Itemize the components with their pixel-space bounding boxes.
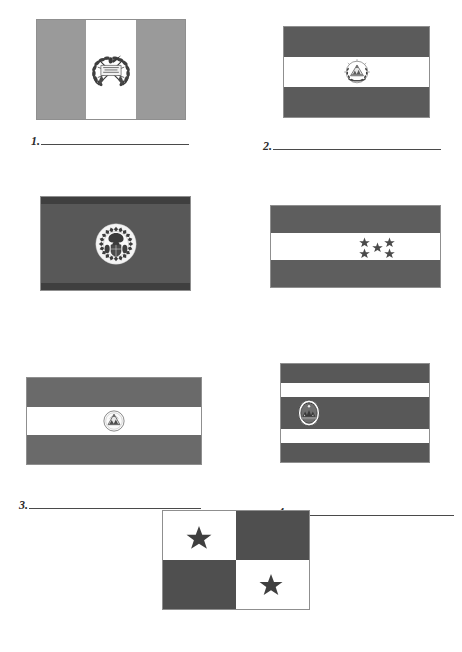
triangle-wreath-seal-emblem xyxy=(343,59,370,86)
panama-quadrant-upper-right xyxy=(236,511,309,560)
panama-quadrant-lower-left xyxy=(163,560,236,609)
flag-band-fly xyxy=(136,20,185,119)
flag-band-top xyxy=(271,206,440,233)
answer-rule-3[interactable] xyxy=(29,508,201,509)
answer-line-2[interactable]: 2. xyxy=(263,139,441,151)
circular-mahogany-seal-emblem xyxy=(95,223,137,265)
flag-band-top xyxy=(284,27,429,57)
answer-line-3[interactable]: 3. xyxy=(19,498,201,510)
item-number-1: 1. xyxy=(31,135,41,147)
triangle-volcano-seal-emblem xyxy=(103,410,126,433)
answer-line-1[interactable]: 1. xyxy=(31,134,189,146)
flag-item-5: 5. xyxy=(26,377,203,466)
flag-band-top xyxy=(27,378,201,407)
flag-band-middle xyxy=(271,233,440,260)
wreath-quetzal-emblem xyxy=(88,47,134,93)
flag-band-5 xyxy=(281,443,429,462)
panama-star-lower-right xyxy=(259,573,283,597)
item-number-2: 2. xyxy=(263,140,273,152)
item-number-3: 3. xyxy=(19,499,29,511)
flag-item-2: 2. xyxy=(283,26,431,119)
flag-item-1: 1. xyxy=(36,19,188,121)
honduras-star-lower-left xyxy=(359,248,370,259)
flag-band-2 xyxy=(281,383,429,398)
honduras-star-center xyxy=(372,242,383,253)
panama-star-upper-left xyxy=(186,525,212,551)
honduras-star-lower-right xyxy=(384,248,395,259)
honduras-star-upper-left xyxy=(359,237,370,248)
honduras-flag xyxy=(270,205,441,288)
flag-band-bottom xyxy=(271,260,440,287)
flag-band-hoist xyxy=(37,20,86,119)
costa-rica-flag xyxy=(280,363,430,463)
nicaragua-flag xyxy=(26,377,202,465)
flag-band-bottom xyxy=(284,87,429,117)
flag-band-bottom xyxy=(27,435,201,464)
flag-item-6: 6. xyxy=(280,363,431,464)
flag-band-4 xyxy=(281,429,429,444)
honduras-star-upper-right xyxy=(384,237,395,248)
answer-rule-4[interactable] xyxy=(288,515,454,516)
flag-item-7: 7. xyxy=(162,510,311,611)
flag-item-4: 4. xyxy=(270,205,442,289)
panama-flag xyxy=(162,510,310,610)
flag-band-1 xyxy=(281,364,429,383)
flag-item-3: 3. xyxy=(40,196,192,292)
flag-band-top xyxy=(41,197,190,204)
answer-rule-2[interactable] xyxy=(273,149,441,150)
oval-coat-of-arms-emblem xyxy=(297,399,321,428)
guatemala-flag xyxy=(36,19,186,120)
flag-band-bottom xyxy=(41,283,190,290)
el-salvador-flag xyxy=(283,26,430,118)
worksheet-page: 1. xyxy=(0,0,462,652)
answer-rule-1[interactable] xyxy=(41,144,189,145)
belize-flag xyxy=(40,196,191,291)
